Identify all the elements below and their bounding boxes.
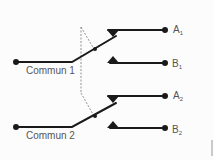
contact-a1-triangle	[107, 30, 119, 37]
contact-b1-triangle	[107, 56, 119, 63]
b1-index: 1	[179, 64, 182, 70]
b2-index: 2	[179, 130, 182, 136]
a2-index: 2	[180, 96, 183, 102]
b2-terminal	[162, 125, 168, 131]
b1-label: B1	[172, 59, 182, 72]
mechanical-link	[81, 27, 94, 116]
commun-1-wire	[16, 36, 116, 62]
pivot-2	[93, 114, 97, 118]
switch-diagram: Commun 1 Commun 2 A1 B1 A2 B2	[0, 0, 214, 160]
commun-1-terminal	[13, 59, 19, 65]
a2-letter: A	[173, 90, 180, 101]
a1-index: 1	[180, 30, 183, 36]
b2-label: B2	[172, 125, 182, 138]
a1-letter: A	[173, 24, 180, 35]
b2-letter: B	[172, 124, 179, 135]
pivot-1	[93, 47, 97, 51]
commun-2-terminal	[13, 124, 19, 130]
commun-2-label: Commun 2	[26, 131, 75, 141]
a2-label: A2	[173, 91, 183, 104]
a2-terminal	[162, 93, 168, 99]
commun-2-wire	[16, 103, 116, 127]
commun-1-label: Commun 1	[26, 66, 75, 76]
b1-terminal	[162, 60, 168, 66]
a1-label: A1	[173, 25, 183, 38]
b1-letter: B	[172, 58, 179, 69]
contact-a2-triangle	[107, 96, 119, 103]
contact-b2-triangle	[107, 121, 119, 128]
a1-terminal	[162, 27, 168, 33]
